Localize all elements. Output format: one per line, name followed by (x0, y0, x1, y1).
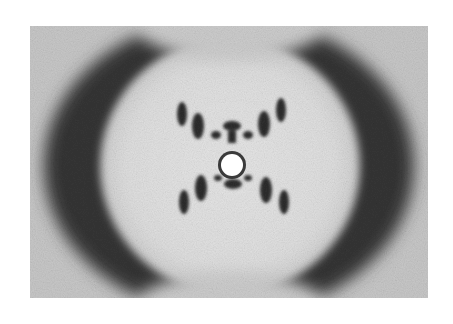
beam-stop (218, 151, 246, 179)
diffraction-photo (30, 26, 428, 298)
diffraction-pattern (30, 26, 428, 298)
